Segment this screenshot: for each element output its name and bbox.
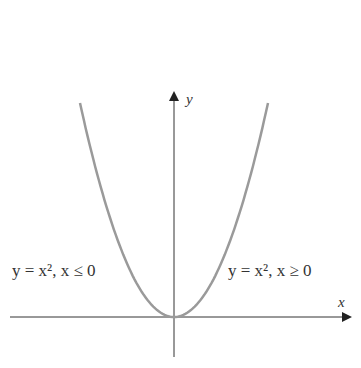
- x-axis-label: x: [337, 294, 345, 310]
- parabola-chart: y x y = x², x ≤ 0 y = x², x ≥ 0: [0, 0, 361, 368]
- right-branch-label: y = x², x ≥ 0: [228, 261, 312, 280]
- left-branch-label: y = x², x ≤ 0: [12, 261, 96, 280]
- y-axis-label: y: [184, 91, 193, 107]
